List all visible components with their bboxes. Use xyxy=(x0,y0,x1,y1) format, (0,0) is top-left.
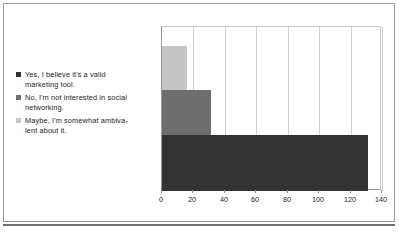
chart-plot-area xyxy=(161,26,381,190)
chart-bar[interactable] xyxy=(162,90,211,135)
chart-plot-wrap xyxy=(161,26,381,190)
x-axis-tick xyxy=(287,190,288,193)
chart-x-axis: 020406080100120140 xyxy=(161,190,382,212)
x-axis-tick xyxy=(192,190,193,193)
legend-swatch-icon-yes xyxy=(16,72,21,77)
legend-swatch-icon-maybe xyxy=(16,118,21,123)
gridline xyxy=(382,27,383,191)
legend-swatch-icon-no xyxy=(16,95,21,100)
x-axis-tick xyxy=(255,190,256,193)
chart-legend: Yes, I believe it's a valid marketing to… xyxy=(16,70,148,140)
legend-label-yes-line1: Yes, I believe it's a valid xyxy=(25,70,148,80)
figure-caption-strip xyxy=(3,224,395,235)
x-axis-tick xyxy=(318,190,319,193)
chart-bar[interactable] xyxy=(162,135,368,191)
x-axis-tick-label: 100 xyxy=(305,195,331,204)
legend-item-no[interactable]: No, I'm not interested in social network… xyxy=(16,93,148,112)
legend-label-yes-line2: marketing tool. xyxy=(25,80,148,90)
legend-label-no-line2: networking. xyxy=(25,103,148,113)
legend-label-maybe-line1: Maybe, I'm somewhat ambiva- xyxy=(25,116,148,126)
x-axis-tick-label: 60 xyxy=(242,195,268,204)
legend-label-maybe-line2: lent about it. xyxy=(25,126,148,136)
x-axis-tick-label: 20 xyxy=(179,195,205,204)
x-axis-tick xyxy=(224,190,225,193)
x-axis-tick xyxy=(381,190,382,193)
chart-bar[interactable] xyxy=(162,46,187,90)
x-axis-tick xyxy=(161,190,162,193)
x-axis-tick-label: 120 xyxy=(337,195,363,204)
legend-item-maybe[interactable]: Maybe, I'm somewhat ambiva- lent about i… xyxy=(16,116,148,135)
x-axis-tick-label: 40 xyxy=(211,195,237,204)
legend-label-no-line1: No, I'm not interested in social xyxy=(25,93,148,103)
x-axis-tick-label: 140 xyxy=(368,195,394,204)
x-axis-tick xyxy=(350,190,351,193)
x-axis-tick-label: 0 xyxy=(148,195,174,204)
x-axis-tick-label: 80 xyxy=(274,195,300,204)
screenshot-root: Yes, I believe it's a valid marketing to… xyxy=(0,0,399,235)
caption-rule-divider xyxy=(3,224,395,226)
chart-figure-frame: Yes, I believe it's a valid marketing to… xyxy=(3,3,395,222)
legend-item-yes[interactable]: Yes, I believe it's a valid marketing to… xyxy=(16,70,148,89)
